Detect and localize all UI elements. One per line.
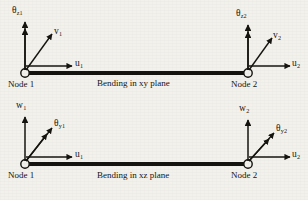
node1-label-xz: Node 1 [8,171,34,180]
u1-label-xz: u1 [75,150,83,160]
node1-label-xy: Node 1 [8,80,34,89]
u2-label-xz: u2 [292,150,300,160]
u2-label-xy: u2 [292,59,300,69]
node2-marker-xy [244,69,252,77]
node2-label-xy: Node 2 [231,80,257,89]
v2-arrow [249,38,272,70]
node2-marker-xz [244,160,252,168]
node2-label-xz: Node 2 [231,171,257,180]
beam-dof-figure: θz1 v1 u1 Node 1 θz2 v2 u2 Node 2 Bendin… [0,0,308,200]
theta-y1-label: θy1 [54,119,65,129]
v2-label: v2 [273,31,281,41]
v1-label: v1 [54,27,62,37]
node1-marker-xy [21,69,29,77]
u1-label-xy: u1 [75,59,83,69]
caption-xz: Bending in xz plane [97,171,169,180]
caption-xy: Bending in xy plane [97,79,170,88]
w1-label: w1 [16,101,26,111]
w2-label: w2 [239,104,249,114]
v1-arrow [26,34,52,70]
theta-z1-label: θz1 [12,6,22,16]
theta-y2-label: θy2 [276,124,287,134]
theta-z2-label: θz2 [236,9,246,19]
node1-marker-xz [21,160,29,168]
